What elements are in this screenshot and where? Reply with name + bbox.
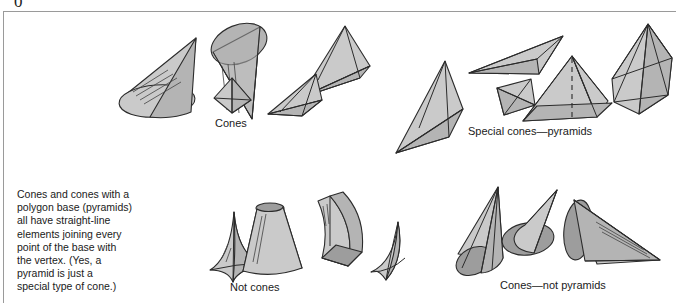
body-line: the vertex. (Yes, a: [17, 254, 167, 267]
shape-long-thin-pyramid: [469, 36, 563, 74]
shape-curved-saddle-shape: [371, 222, 405, 280]
shape-oblique-square-pyramid: [268, 74, 322, 116]
body-line: special type of cone.): [17, 280, 167, 293]
shape-small-octahedral-pyramid: [497, 79, 535, 115]
shape-curved-dome-box: [318, 192, 363, 266]
shape-hexagonal-pyramid: [612, 24, 672, 114]
shape-circular-cone-pointing-right: [500, 190, 557, 258]
body-line: Cones and cones with a: [17, 188, 167, 201]
caption-not-cones: Not cones: [230, 282, 280, 293]
body-line: point of the base with: [17, 241, 167, 254]
shape-elliptical-cone-upright: [451, 187, 503, 281]
figure-container: 0 .lt { fill:#cacaca; stroke:#2b2b2b; st…: [0, 0, 678, 305]
caption-special-cones: Special cones—pyramids: [468, 126, 592, 137]
shape-oblique-circular-cone-left: [118, 38, 196, 120]
shape-circular-cone-pointing-down-right: [561, 199, 660, 264]
body-line: all have straight-line: [17, 214, 167, 227]
shape-triangular-pyramid-tilted: [396, 61, 463, 153]
caption-cones-not-pyramids: Cones—not pyramids: [500, 280, 606, 291]
body-line: elements joining every: [17, 228, 167, 241]
explanatory-text-block: Cones and cones with a polygon base (pyr…: [17, 188, 167, 294]
caption-cones: Cones: [215, 118, 247, 129]
body-line: polygon base (pyramids): [17, 201, 167, 214]
shape-truncated-cone-frustum: [243, 203, 302, 274]
body-line: pyramid is just a: [17, 267, 167, 280]
